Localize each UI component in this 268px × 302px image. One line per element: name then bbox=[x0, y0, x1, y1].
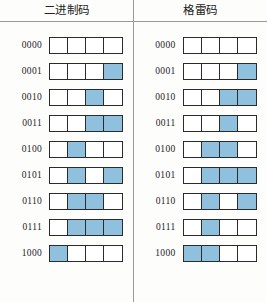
code-row: 0001 bbox=[0, 58, 134, 84]
bit-cell bbox=[202, 168, 220, 183]
bit-strip bbox=[49, 115, 123, 132]
bit-cell bbox=[86, 64, 104, 79]
bit-strip bbox=[49, 219, 123, 236]
code-row: 0000 bbox=[134, 32, 268, 58]
panel-gray: 000000010010001101000101011001111000 bbox=[134, 22, 268, 302]
row-label: 0001 bbox=[142, 66, 183, 76]
bit-cell bbox=[220, 64, 238, 79]
bit-cell bbox=[104, 246, 122, 261]
bit-cell bbox=[104, 194, 122, 209]
bit-cell bbox=[238, 142, 256, 157]
panel-binary: 000000010010001101000101011001111000 bbox=[0, 22, 134, 302]
bit-cell bbox=[202, 64, 220, 79]
code-row: 0000 bbox=[0, 32, 134, 58]
code-row: 0010 bbox=[0, 84, 134, 110]
bit-strip bbox=[183, 245, 257, 262]
row-label: 0110 bbox=[8, 196, 49, 206]
row-label: 0010 bbox=[8, 92, 49, 102]
bit-cell bbox=[220, 194, 238, 209]
column-header-gray: 格雷码 bbox=[134, 0, 268, 21]
row-label: 0001 bbox=[8, 66, 49, 76]
bit-cell bbox=[202, 90, 220, 105]
bit-strip bbox=[49, 193, 123, 210]
code-row: 0101 bbox=[134, 162, 268, 188]
code-row: 1000 bbox=[134, 240, 268, 266]
bit-cell bbox=[184, 246, 202, 261]
bit-strip bbox=[183, 141, 257, 158]
row-label: 0110 bbox=[142, 196, 183, 206]
row-label: 0011 bbox=[8, 118, 49, 128]
bit-cell bbox=[202, 142, 220, 157]
code-row: 0111 bbox=[134, 214, 268, 240]
bit-cell bbox=[238, 168, 256, 183]
bit-cell bbox=[50, 116, 68, 131]
bit-cell bbox=[184, 220, 202, 235]
bit-cell bbox=[220, 116, 238, 131]
bit-cell bbox=[68, 194, 86, 209]
code-row: 0110 bbox=[0, 188, 134, 214]
bit-cell bbox=[184, 38, 202, 53]
bit-cell bbox=[220, 246, 238, 261]
bit-cell bbox=[104, 90, 122, 105]
bit-strip bbox=[183, 63, 257, 80]
bit-cell bbox=[184, 168, 202, 183]
bit-cell bbox=[50, 90, 68, 105]
bit-strip bbox=[49, 89, 123, 106]
row-label: 0000 bbox=[8, 40, 49, 50]
bit-strip bbox=[49, 37, 123, 54]
bit-strip bbox=[49, 141, 123, 158]
bit-cell bbox=[104, 116, 122, 131]
bit-cell bbox=[50, 194, 68, 209]
bit-cell bbox=[86, 116, 104, 131]
code-row: 0010 bbox=[134, 84, 268, 110]
bit-cell bbox=[184, 142, 202, 157]
bit-cell bbox=[50, 38, 68, 53]
code-row: 1000 bbox=[0, 240, 134, 266]
bit-cell bbox=[104, 220, 122, 235]
bit-cell bbox=[104, 38, 122, 53]
bit-cell bbox=[184, 116, 202, 131]
bit-cell bbox=[202, 38, 220, 53]
code-row: 0100 bbox=[134, 136, 268, 162]
bit-cell bbox=[50, 142, 68, 157]
bit-cell bbox=[238, 64, 256, 79]
code-row: 0001 bbox=[134, 58, 268, 84]
bit-cell bbox=[50, 64, 68, 79]
bit-cell bbox=[238, 38, 256, 53]
bit-cell bbox=[86, 194, 104, 209]
bit-cell bbox=[202, 194, 220, 209]
bit-strip bbox=[49, 167, 123, 184]
bit-cell bbox=[202, 116, 220, 131]
bit-cell bbox=[50, 246, 68, 261]
bit-cell bbox=[220, 90, 238, 105]
bit-cell bbox=[68, 142, 86, 157]
bit-cell bbox=[184, 90, 202, 105]
row-label: 0000 bbox=[142, 40, 183, 50]
bit-strip bbox=[183, 89, 257, 106]
code-row: 0011 bbox=[134, 110, 268, 136]
bit-cell bbox=[68, 38, 86, 53]
bit-cell bbox=[104, 142, 122, 157]
bit-cell bbox=[68, 90, 86, 105]
bit-cell bbox=[202, 246, 220, 261]
bit-cell bbox=[50, 168, 68, 183]
bit-cell bbox=[50, 220, 68, 235]
bit-cell bbox=[238, 116, 256, 131]
code-row: 0100 bbox=[0, 136, 134, 162]
bit-cell bbox=[86, 142, 104, 157]
column-header-binary: 二进制码 bbox=[0, 0, 134, 21]
bit-cell bbox=[86, 168, 104, 183]
bit-cell bbox=[104, 64, 122, 79]
bit-strip bbox=[183, 167, 257, 184]
bit-cell bbox=[68, 116, 86, 131]
bit-cell bbox=[202, 220, 220, 235]
row-label: 0111 bbox=[142, 222, 183, 232]
code-row: 0011 bbox=[0, 110, 134, 136]
row-label: 0100 bbox=[8, 144, 49, 154]
bit-strip bbox=[49, 245, 123, 262]
row-label: 0111 bbox=[8, 222, 49, 232]
bit-cell bbox=[238, 220, 256, 235]
row-label: 0101 bbox=[8, 170, 49, 180]
bit-cell bbox=[86, 90, 104, 105]
bit-cell bbox=[68, 246, 86, 261]
